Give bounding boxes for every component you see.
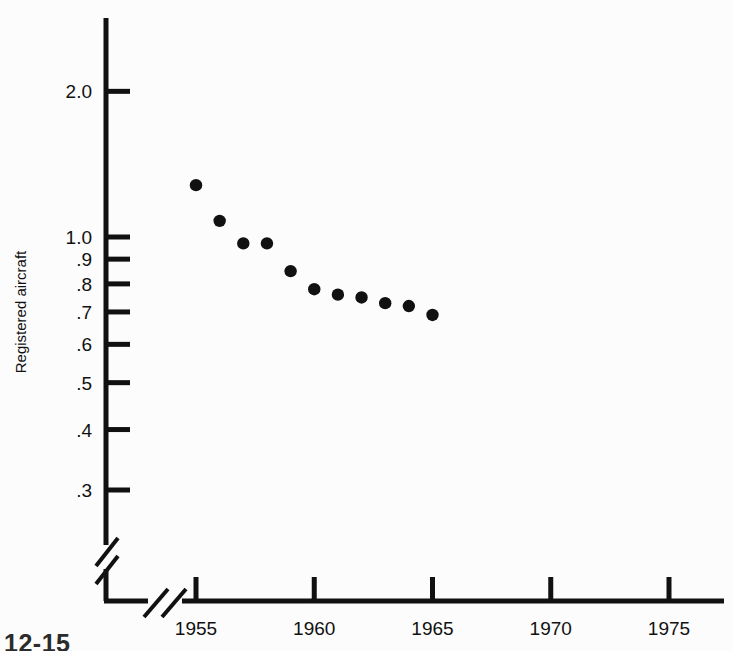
figure-caption: 12-15 [4,632,70,651]
data-point [261,237,273,249]
figure-container: Registered aircraft .3.4.5.6.7.8.91.02.0… [0,0,733,651]
data-point [213,215,225,227]
data-point [355,291,367,303]
x-tick-label-1965: 1965 [411,618,453,639]
y-tick-label-.6: .6 [76,334,92,355]
data-point [332,288,344,300]
x-tick-label-1975: 1975 [648,618,690,639]
x-tick-label-1960: 1960 [293,618,335,639]
y-tick-label-.5: .5 [76,373,92,394]
y-axis-ticks: .3.4.5.6.7.8.91.02.0 [66,81,130,501]
y-axis-label: Registered aircraft [12,250,29,373]
x-axis-ticks: 19551960196519701975 [175,577,690,639]
scatter-plot: Registered aircraft .3.4.5.6.7.8.91.02.0… [0,0,733,651]
data-point [190,179,202,191]
x-tick-label-1970: 1970 [530,618,572,639]
data-point [308,283,320,295]
data-point [284,265,296,277]
y-tick-label-.7: .7 [76,302,92,323]
y-tick-label-2.0: 2.0 [66,81,92,102]
axis-spines [104,18,724,601]
x-tick-label-1955: 1955 [175,618,217,639]
x-axis-break-icon [144,589,186,617]
y-tick-label-.9: .9 [76,249,92,270]
data-point [237,237,249,249]
y-tick-label-.4: .4 [76,420,92,441]
data-point [426,309,438,321]
data-point [379,297,391,309]
data-point-group [190,179,439,321]
y-tick-label-.8: .8 [76,274,92,295]
data-point [403,300,415,312]
y-tick-label-.3: .3 [76,480,92,501]
y-tick-label-1.0: 1.0 [66,227,92,248]
